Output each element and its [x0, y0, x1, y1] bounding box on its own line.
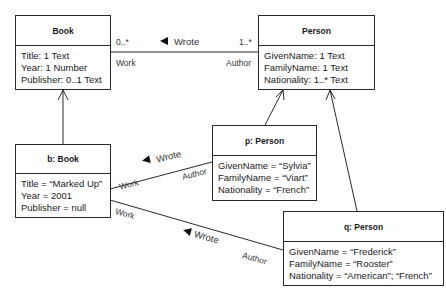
attribute: Title = “Marked Up” [21, 178, 105, 190]
class-person: Person GivenName: 1 Text FamilyName: 1 T… [258, 15, 375, 90]
attribute: Nationality = “French” [218, 184, 311, 196]
class-book: Book Title: 1 Text Year: 1 Number Publis… [15, 15, 111, 90]
attribute-list: GivenName: 1 Text FamilyName: 1 Text Nat… [259, 46, 374, 86]
multiplicity-right: 1..* [239, 37, 252, 47]
class-title: Person [259, 16, 374, 46]
attribute: FamilyName: 1 Text [264, 62, 369, 74]
attribute: FamilyName = “Viart” [218, 172, 311, 184]
class-title: Book [16, 16, 110, 46]
attribute-list: GivenName = “Frederick” FamilyName = “Ro… [284, 242, 443, 282]
uml-diagram: Book Title: 1 Text Year: 1 Number Publis… [0, 0, 446, 300]
attribute: Title: 1 Text [21, 50, 105, 62]
attribute: Publisher: 0..1 Text [21, 74, 105, 86]
role-author: Author [226, 58, 251, 68]
instance-of-arrow-p-person [265, 90, 284, 125]
object-b-book: b: Book Title = “Marked Up” Year = 2001 … [15, 144, 111, 218]
attribute: GivenName: 1 Text [264, 50, 369, 62]
multiplicity-left: 0..* [116, 37, 129, 47]
object-p-person: p: Person GivenName = “Sylvia” FamilyNam… [212, 125, 317, 201]
object-title: q: Person [284, 212, 443, 242]
attribute: Year: 1 Number [21, 62, 105, 74]
link-line-b-q [110, 200, 283, 250]
attribute: Nationality = “American”; “French” [289, 270, 438, 282]
role-work: Work [116, 58, 136, 68]
association-name: Wrote [174, 36, 199, 47]
attribute: Nationality: 1..* Text [264, 74, 369, 86]
attribute: Publisher = null [21, 202, 105, 214]
attribute-list: GivenName = “Sylvia” FamilyName = “Viart… [213, 156, 316, 196]
object-title: p: Person [213, 126, 316, 156]
attribute: GivenName = “Sylvia” [218, 160, 311, 172]
object-q-person: q: Person GivenName = “Frederick” Family… [283, 211, 444, 286]
attribute-list: Title: 1 Text Year: 1 Number Publisher: … [16, 46, 110, 86]
instance-of-arrow-b-book [58, 90, 68, 144]
attribute-list: Title = “Marked Up” Year = 2001 Publishe… [16, 174, 110, 214]
triangle-left-icon [160, 37, 168, 45]
object-title: b: Book [16, 145, 110, 174]
triangle-left-icon [141, 155, 150, 164]
attribute: GivenName = “Frederick” [289, 246, 438, 258]
attribute: FamilyName = “Rooster” [289, 258, 438, 270]
attribute: Year = 2001 [21, 190, 105, 202]
instance-of-arrow-q-person [326, 90, 357, 211]
